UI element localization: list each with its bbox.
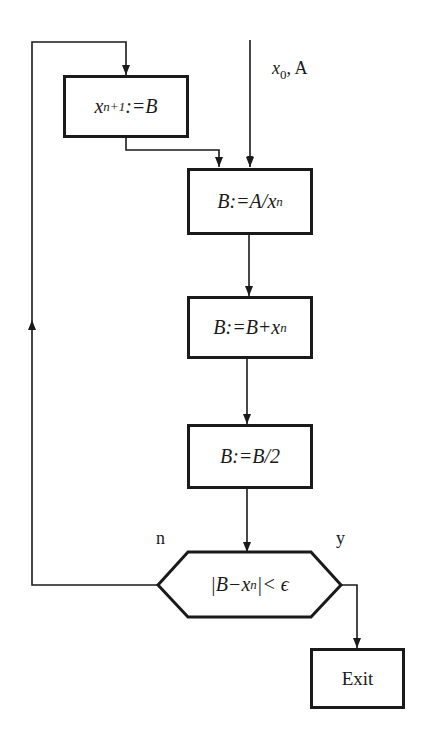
node-exit: Exit (310, 648, 405, 709)
node-text: x (94, 95, 103, 118)
node-text: :=B (125, 95, 157, 118)
node-sub: n (280, 320, 287, 336)
node-sub: n (276, 194, 283, 210)
node-sub: n+1 (103, 99, 125, 115)
input-label: x0, A (272, 58, 308, 83)
node-divide: B:=A/xn (187, 168, 313, 235)
node-halve: B:=B/2 (187, 424, 313, 489)
input-rest: , A (287, 58, 308, 78)
node-text: |B−x (210, 573, 250, 596)
node-text: B:=A/x (217, 190, 276, 213)
node-update: xn+1:=B (63, 75, 189, 138)
node-text: B:=B+x (213, 316, 280, 339)
node-text: B:=B/2 (220, 445, 280, 468)
node-text: |< ϵ (257, 573, 289, 596)
node-test: |B−xn|< ϵ (158, 552, 341, 617)
input-var: x (272, 58, 280, 78)
node-add: B:=B+xn (187, 296, 313, 359)
branch-yes-label: y (336, 528, 345, 549)
branch-no-label: n (156, 528, 165, 549)
